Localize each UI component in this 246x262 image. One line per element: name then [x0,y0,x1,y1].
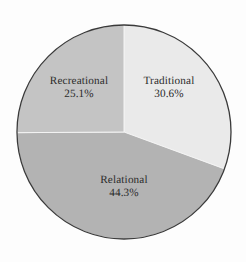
slice-value-recreational: 25.1% [50,88,108,101]
slice-value-traditional: 30.6% [144,88,195,101]
slice-name-traditional: Traditional [144,75,195,88]
slice-name-recreational: Recreational [50,75,108,88]
slice-name-relational: Relational [100,174,147,187]
pie-slices-group [17,25,231,239]
slice-value-relational: 44.3% [100,187,147,200]
slice-label-relational: Relational 44.3% [100,174,147,201]
slice-label-recreational: Recreational 25.1% [50,75,108,102]
slice-label-traditional: Traditional 30.6% [144,75,195,102]
pie-chart-figure: Traditional 30.6% Relational 44.3% Recre… [0,0,246,262]
pie-chart-canvas [0,0,246,262]
